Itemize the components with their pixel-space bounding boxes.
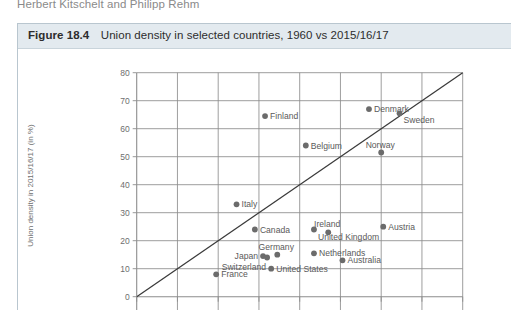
data-point-marker[interactable] bbox=[274, 252, 280, 258]
y-tick-label: 10 bbox=[120, 264, 130, 274]
y-axis-title: Union density in 2015/16/17 (in %) bbox=[26, 124, 35, 247]
data-point-marker[interactable] bbox=[303, 143, 309, 149]
figure-caption-title: Union density in selected countries, 196… bbox=[101, 29, 389, 41]
data-point-label: Germany bbox=[259, 242, 295, 252]
data-point-label: Japan bbox=[235, 251, 259, 261]
data-point-label: United States bbox=[276, 264, 328, 274]
data-point-label: Sweden bbox=[404, 115, 435, 125]
data-point-marker[interactable] bbox=[340, 257, 346, 263]
data-point-label: Canada bbox=[260, 225, 290, 235]
data-point-marker[interactable] bbox=[268, 266, 274, 272]
data-point-marker[interactable] bbox=[311, 250, 317, 256]
data-points: FinlandDenmarkSwedenBelgiumNorwayItalyCa… bbox=[213, 104, 435, 279]
y-tick-label: 80 bbox=[120, 68, 130, 78]
data-point-label: Norway bbox=[366, 140, 396, 150]
data-point-marker[interactable] bbox=[380, 224, 386, 230]
y-axis-label: Union density in 2015/16/17 (in %) bbox=[26, 124, 35, 247]
data-point-label: Italy bbox=[242, 199, 258, 209]
y-tick-label: 30 bbox=[120, 208, 130, 218]
figure-box: Figure 18.4 Union density in selected co… bbox=[17, 23, 511, 310]
y-tick-label: 0 bbox=[125, 292, 130, 302]
data-point-label: Belgium bbox=[311, 141, 342, 151]
data-point-marker[interactable] bbox=[252, 227, 258, 233]
figure-number: Figure 18.4 bbox=[28, 29, 89, 41]
page-root: Herbert Kitschelt and Philipp Rehm Figur… bbox=[0, 0, 511, 310]
y-tick-label: 50 bbox=[120, 152, 130, 162]
data-point-label: Ireland bbox=[314, 219, 340, 229]
data-point-marker[interactable] bbox=[366, 106, 372, 112]
data-point-label: United Kingdom bbox=[318, 232, 379, 242]
data-point-marker[interactable] bbox=[311, 227, 317, 233]
grid-lines bbox=[137, 73, 463, 310]
x-axis-ticks bbox=[137, 297, 463, 302]
data-point-marker[interactable] bbox=[213, 271, 219, 277]
scatter-plot: 01020304050607080 Union density in 2015/… bbox=[18, 49, 511, 310]
y-tick-label: 40 bbox=[120, 180, 130, 190]
data-point-label: Australia bbox=[347, 255, 381, 265]
chart-canvas: 01020304050607080 Union density in 2015/… bbox=[18, 49, 511, 310]
y-tick-label: 70 bbox=[120, 96, 130, 106]
data-point-label: Denmark bbox=[374, 104, 410, 114]
data-point-label: Finland bbox=[270, 111, 298, 121]
data-point-marker[interactable] bbox=[234, 201, 240, 207]
data-point-marker[interactable] bbox=[262, 113, 268, 119]
data-point-marker[interactable] bbox=[397, 110, 403, 116]
data-point-marker[interactable] bbox=[264, 255, 270, 261]
running-head: Herbert Kitschelt and Philipp Rehm bbox=[17, 0, 199, 10]
data-point-label: France bbox=[221, 269, 248, 279]
data-point-label: Austria bbox=[388, 222, 415, 232]
y-tick-label: 20 bbox=[120, 236, 130, 246]
figure-caption: Figure 18.4 Union density in selected co… bbox=[28, 29, 389, 41]
data-point-marker[interactable] bbox=[378, 150, 384, 156]
y-axis-ticks: 01020304050607080 bbox=[120, 68, 136, 302]
y-tick-label: 60 bbox=[120, 124, 130, 134]
